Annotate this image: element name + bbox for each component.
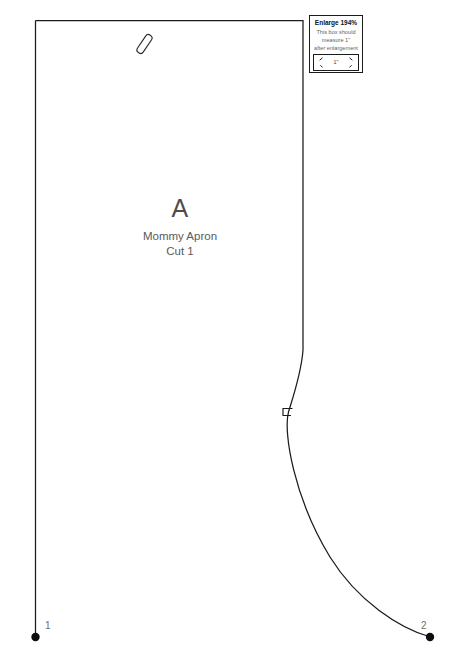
pattern-drawing	[0, 0, 456, 670]
pattern-sheet: A Mommy Apron Cut 1 1 2 Enlarge 194% Thi…	[0, 0, 456, 670]
piece-outline-path	[36, 21, 430, 637]
piece-label: A Mommy Apron Cut 1	[104, 192, 256, 259]
enlarge-instruction-line-3: after enlargement	[313, 44, 359, 52]
point-2-dot	[426, 633, 434, 641]
enlarge-calibration-box: Enlarge 194% This box should measure 1" …	[309, 15, 363, 73]
buttonhole-slit-mark	[136, 33, 154, 54]
enlarge-instruction-line-2: measure 1"	[313, 36, 359, 44]
point-number-2: 2	[421, 620, 427, 631]
piece-name: Mommy Apron	[104, 229, 256, 244]
point-number-1: 1	[45, 620, 51, 631]
enlarge-instruction: This box should measure 1" after enlarge…	[312, 28, 360, 52]
measure-reference-box: 1"	[313, 54, 359, 71]
enlarge-title: Enlarge 194%	[312, 19, 360, 26]
piece-letter: A	[104, 192, 256, 225]
piece-cut-instruction: Cut 1	[104, 244, 256, 259]
enlarge-instruction-line-1: This box should	[313, 28, 359, 36]
measure-label: 1"	[314, 60, 358, 65]
point-1-dot	[31, 633, 39, 641]
